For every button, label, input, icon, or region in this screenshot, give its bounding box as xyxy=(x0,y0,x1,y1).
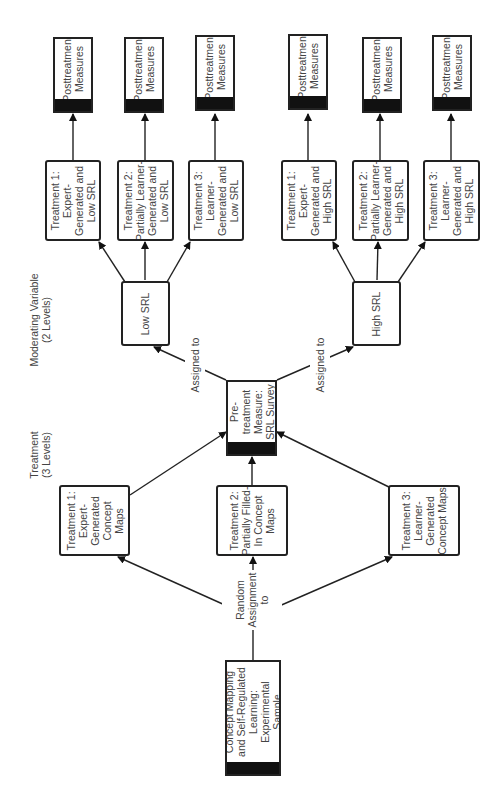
cell-high-2: Treatment 2: Partially Learner- Generate… xyxy=(352,160,409,241)
arrow-high-to-c2 xyxy=(377,242,378,280)
treatment-box-2: Treatment 2: Partially Filled- In Concep… xyxy=(216,485,288,556)
treatment-box-3: Treatment 3: Learner- Generated Concept … xyxy=(388,485,460,556)
posttreatment-box-5: Posttreatment Measures xyxy=(362,37,402,113)
cell-high-1: Treatment 1: Expert- Generated and High … xyxy=(281,160,337,241)
arrow-random-to-t3 xyxy=(270,557,392,610)
arrow-high-to-c1 xyxy=(333,242,355,282)
arrow-low-to-c3 xyxy=(167,242,190,282)
assigned-to-low-label: Assigned to xyxy=(185,335,205,395)
posttreatment-box-4: Posttreatment Measures xyxy=(288,34,328,110)
assigned-to-high-label: Assigned to xyxy=(310,335,330,395)
posttreatment-box-6: Posttreatment Measures xyxy=(432,35,472,111)
moderator-heading: Moderating Variable (2 Levels) xyxy=(20,250,60,390)
low-srl-box: Low SRL xyxy=(121,281,170,346)
cell-low-3: Treatment 3: Learner- Generated and Low … xyxy=(188,160,244,241)
posttreatment-box-3: Posttreatment Measures xyxy=(195,35,235,111)
sample-box: Concept Mapping and Self-Regulated Learn… xyxy=(225,660,281,776)
arrow-random-to-t1 xyxy=(118,557,236,610)
arrow-t1-to-pre xyxy=(130,432,226,495)
treatment-box-1: Treatment 1: Expert- Generated Concept M… xyxy=(59,485,130,556)
high-srl-box: High SRL xyxy=(352,281,401,346)
cell-low-1: Treatment 1: Expert- Generated and Low S… xyxy=(45,160,101,241)
arrow-high-to-c3 xyxy=(398,242,425,282)
posttreatment-box-1: Posttreatment Measures xyxy=(53,37,93,113)
arrow-t3-to-pre xyxy=(277,432,395,490)
random-assignment-label: Random Assignment to xyxy=(222,570,282,630)
arrow-low-to-c1 xyxy=(99,242,125,282)
pretreatment-box: Pre- treatment Measure: SRL Survey xyxy=(226,380,277,456)
cell-low-2: Treatment 2: Partially Learner- Generate… xyxy=(117,160,174,241)
treatment-heading: Treatment (3 Levels) xyxy=(20,410,60,500)
cell-high-3: Treatment 3: Learner- Generated and High… xyxy=(423,160,480,241)
posttreatment-box-2: Posttreatment Measures xyxy=(124,37,164,113)
